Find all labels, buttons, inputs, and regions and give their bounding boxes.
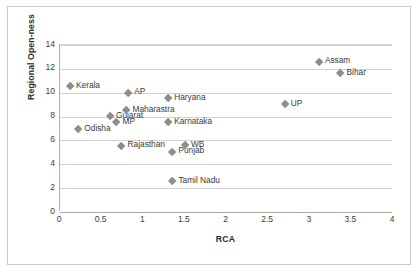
data-point-label: MP xyxy=(123,117,135,125)
y-axis-tick-labels: 02468101214 xyxy=(11,44,55,211)
x-tick-label-2.5: 2.5 xyxy=(247,215,287,224)
diamond-marker-icon xyxy=(164,94,173,103)
x-tick-label-3.5: 3.5 xyxy=(330,215,370,224)
diamond-marker-icon xyxy=(168,147,177,156)
data-point-label: Haryana xyxy=(174,93,205,101)
diamond-marker-icon xyxy=(168,177,177,186)
data-point-label: AP xyxy=(134,87,145,95)
x-tick-label-1: 1 xyxy=(122,215,162,224)
y-tick-label-6: 6 xyxy=(15,135,55,144)
diamond-marker-icon xyxy=(336,69,345,78)
diamond-marker-icon xyxy=(117,141,126,150)
gridline-y-14 xyxy=(60,45,392,46)
x-tick-label-0: 0 xyxy=(39,215,79,224)
y-tick-label-4: 4 xyxy=(15,159,55,168)
data-point-label: Bihar xyxy=(347,68,366,76)
x-tick-label-4: 4 xyxy=(372,215,412,224)
y-tick-label-12: 12 xyxy=(15,63,55,72)
data-point-label: Odisha xyxy=(84,124,110,132)
diamond-marker-icon xyxy=(280,100,289,109)
gridline-y-4 xyxy=(60,164,392,165)
gridline-y-0 xyxy=(60,212,392,213)
scatter-chart-figure: Regional Open-ness 02468101214 KeralaOdi… xyxy=(0,0,419,274)
x-axis-tick-labels: 00.511.522.533.54 xyxy=(59,215,392,229)
y-tick-label-10: 10 xyxy=(15,87,55,96)
diamond-marker-icon xyxy=(124,88,133,97)
plot-area: KeralaOdishaGujaratMPMaharastraAPRajasth… xyxy=(59,44,392,211)
y-tick-label-8: 8 xyxy=(15,111,55,120)
x-axis-title: RCA xyxy=(59,234,392,244)
diamond-marker-icon xyxy=(164,118,173,127)
gridline-y-10 xyxy=(60,93,392,94)
gridline-y-2 xyxy=(60,188,392,189)
data-point-label: Kerala xyxy=(76,81,100,89)
diamond-marker-icon xyxy=(65,82,74,91)
x-tick-label-3: 3 xyxy=(289,215,329,224)
data-point-label: Assam xyxy=(325,56,350,64)
data-point-label: Rajasthan xyxy=(128,140,165,148)
diamond-marker-icon xyxy=(74,125,83,134)
data-point-label: Karnataka xyxy=(174,117,212,125)
data-point-label: WB xyxy=(191,140,204,148)
data-point-label: UP xyxy=(291,99,303,107)
x-tick-label-1.5: 1.5 xyxy=(164,215,204,224)
y-tick-label-14: 14 xyxy=(15,40,55,49)
x-tick-label-2: 2 xyxy=(206,215,246,224)
y-tick-label-0: 0 xyxy=(15,207,55,216)
x-tick-label-0.5: 0.5 xyxy=(81,215,121,224)
y-tick-label-2: 2 xyxy=(15,183,55,192)
data-point-label: Maharastra xyxy=(133,105,175,113)
gridline-y-6 xyxy=(60,140,392,141)
diamond-marker-icon xyxy=(314,57,323,66)
data-point-label: Tamil Nadu xyxy=(178,176,220,184)
